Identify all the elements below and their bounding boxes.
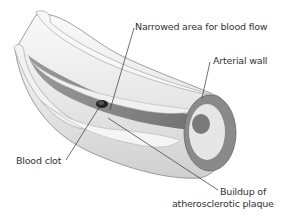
artery-diagram: Narrowed area for blood flow Arterial wa…: [0, 0, 286, 220]
label-plaque-line1: Buildup of: [220, 186, 266, 198]
label-blood-clot: Blood clot: [16, 155, 61, 167]
artery-cross-section: [184, 95, 236, 171]
label-narrowed-area: Narrowed area for blood flow: [135, 21, 267, 33]
label-arterial-wall: Arterial wall: [213, 55, 267, 67]
label-plaque-line2: atherosclerotic plaque: [172, 198, 274, 210]
blood-clot: [96, 100, 108, 108]
